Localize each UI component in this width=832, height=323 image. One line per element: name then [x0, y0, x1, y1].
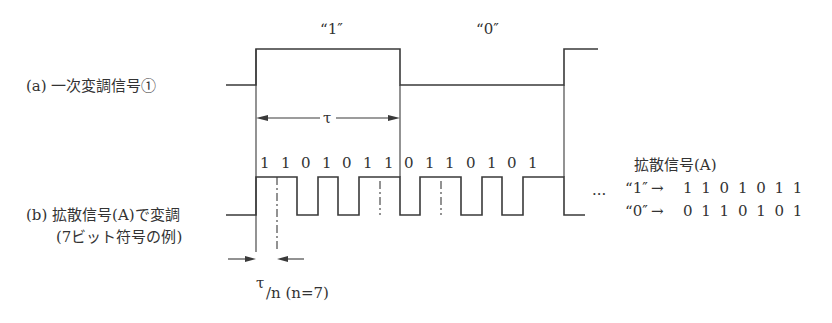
spread-signal-waveform [226, 177, 585, 215]
legend-arrow-1: → [651, 179, 664, 197]
primary-signal-waveform [226, 49, 598, 85]
chip-arrow-left-icon [277, 256, 288, 262]
svg-text:1: 1 [363, 154, 373, 172]
legend-code-1: 1 1 0 1 0 1 1 [683, 179, 804, 197]
chip-duration-label: /n (n=7) [266, 284, 329, 302]
chip-arrow-right-icon [245, 256, 256, 262]
label-a-primary-signal: (a) 一次変調信号① [26, 77, 156, 95]
legend-key-0: “0″ [625, 202, 648, 220]
svg-text:1: 1 [384, 154, 394, 172]
bit-label-0: “0″ [476, 20, 499, 38]
diagram-svg: “1″ “0″ (a) 一次変調信号① τ 1 1 0 1 0 1 1 0 1 … [0, 0, 832, 323]
svg-text:1: 1 [528, 154, 538, 172]
svg-text:0: 0 [404, 154, 414, 172]
svg-text:1: 1 [487, 154, 497, 172]
chip-bits-row: 1 1 0 1 0 1 1 0 1 1 0 1 0 1 [260, 154, 538, 172]
svg-text:0: 0 [507, 154, 517, 172]
svg-text:0: 0 [301, 154, 311, 172]
svg-text:0: 0 [342, 154, 352, 172]
svg-text:1: 1 [281, 154, 291, 172]
legend-title: 拡散信号(A) [634, 156, 717, 174]
continuation-ellipsis: ··· [592, 185, 606, 203]
svg-text:1: 1 [425, 154, 435, 172]
tau-label: τ [323, 109, 331, 127]
label-b-subtitle: (7ビット符号の例) [56, 228, 182, 246]
svg-text:1: 1 [322, 154, 332, 172]
svg-text:0: 0 [466, 154, 476, 172]
legend-key-1: “1″ [625, 179, 648, 197]
svg-text:1: 1 [260, 154, 270, 172]
legend-code-0: 0 1 1 0 1 0 1 [683, 202, 804, 220]
tau-arrow-right-icon [388, 115, 400, 121]
tau-arrow-left-icon [256, 115, 268, 121]
legend-arrow-0: → [651, 202, 664, 220]
bit-label-1: “1″ [320, 20, 343, 38]
svg-text:1: 1 [445, 154, 455, 172]
spread-spectrum-diagram: “1″ “0″ (a) 一次変調信号① τ 1 1 0 1 0 1 1 0 1 … [0, 0, 832, 323]
label-b-spread-modulation: (b) 拡散信号(A)で変調 [26, 206, 180, 224]
chip-duration-tau: τ [256, 274, 264, 292]
